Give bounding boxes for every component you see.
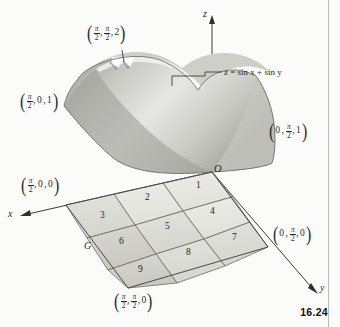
paren-close: ) (53, 92, 58, 110)
paren-open: ( (21, 176, 26, 194)
paren-close: ) (120, 24, 125, 42)
grid-cell-9: 9 (138, 264, 143, 274)
paren-close: ) (54, 176, 59, 194)
grid-cell-5: 5 (165, 221, 170, 231)
paren-open: ( (269, 122, 274, 140)
paren-open: ( (87, 24, 92, 42)
region-label-g: G (84, 241, 91, 251)
point-label-left-ridge: ( π2 , 0 , 1 ) (19, 92, 59, 111)
z-axis-label: z (203, 9, 207, 19)
grid-cell-7: 7 (232, 232, 237, 242)
paren-open: ( (20, 92, 25, 110)
point-label-base-far: ( π2 , π2 , 0 ) (113, 292, 154, 311)
grid-cell-6: 6 (119, 236, 124, 246)
paren-open: ( (273, 225, 278, 243)
origin-label: O (214, 164, 222, 175)
point-label-right-ridge: ( 0 , π2 , 1 ) (268, 122, 308, 141)
paren-close: ) (306, 225, 311, 243)
grid-cell-3: 3 (100, 210, 105, 220)
grid-cell-1: 1 (196, 180, 201, 190)
y-axis-label: y (320, 283, 324, 293)
grid-cell-2: 2 (145, 192, 150, 202)
point-label-base-x: ( π2 , 0 , 0 ) (20, 176, 60, 195)
point-label-apex: ( π2 , π2 , 2 ) (86, 24, 127, 43)
equation-label: z = sin x + sin y (224, 68, 282, 77)
grid-cell-8: 8 (186, 247, 191, 257)
paren-open: ( (114, 292, 119, 310)
paren-close: ) (302, 122, 307, 140)
figure-canvas (0, 0, 340, 327)
grid-cell-4: 4 (210, 206, 215, 216)
x-axis-label: x (8, 209, 12, 219)
point-label-base-y: ( 0 , π2 , 0 ) (272, 225, 312, 244)
figure-number: 16.24 (300, 306, 328, 318)
paren-close: ) (147, 292, 152, 310)
